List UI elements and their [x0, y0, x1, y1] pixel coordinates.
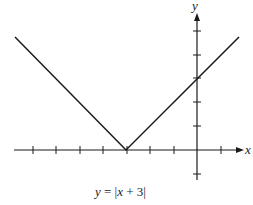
y-axis-arrow-icon	[194, 13, 200, 21]
equation-caption: y = |x + 3|	[93, 184, 146, 199]
x-axis-label: x	[244, 142, 251, 157]
graph: x y y = |x + 3|	[0, 0, 253, 205]
y-axis-label: y	[190, 0, 198, 13]
x-axis-arrow-icon	[236, 147, 244, 153]
function-line	[15, 37, 239, 150]
